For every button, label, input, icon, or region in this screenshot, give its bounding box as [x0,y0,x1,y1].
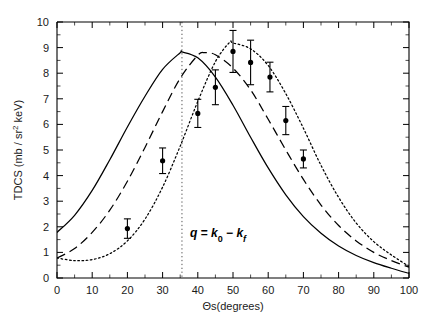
data-point-marker [230,49,235,54]
y-tick-label: 10 [37,16,49,28]
data-point-marker [248,60,253,65]
y-tick-label: 8 [43,67,49,79]
x-tick-label: 70 [297,284,309,296]
x-tick-label: 80 [332,284,344,296]
tdcs-angular-distribution-chart: 0102030405060708090100 012345678910 Θs(d… [0,0,436,323]
x-tick-label: 50 [227,284,239,296]
y-tick-label: 4 [43,170,49,182]
y-tick-label: 2 [43,221,49,233]
x-tick-label: 40 [192,284,204,296]
x-tick-label: 20 [121,284,133,296]
chart-background [0,0,436,323]
x-tick-label: 100 [400,284,418,296]
data-point-marker [160,158,165,163]
data-point-marker [267,74,272,79]
x-tick-label: 0 [54,284,60,296]
data-point-marker [301,156,306,161]
data-point-marker [283,118,288,123]
x-tick-label: 90 [368,284,380,296]
y-tick-label: 5 [43,144,49,156]
y-axis-title: TDCS (mb / sr2 keV) [11,100,25,200]
x-tick-label: 30 [156,284,168,296]
y-tick-label: 7 [43,93,49,105]
y-tick-label: 0 [43,272,49,284]
figure-container: 0102030405060708090100 012345678910 Θs(d… [0,0,436,323]
y-tick-label: 1 [43,246,49,258]
data-point-marker [213,85,218,90]
y-tick-label: 9 [43,42,49,54]
x-axis-title: Θs(degrees) [202,300,263,312]
data-point-marker [125,226,130,231]
x-tick-label: 60 [262,284,274,296]
y-tick-label: 6 [43,118,49,130]
y-tick-label: 3 [43,195,49,207]
x-tick-label: 10 [86,284,98,296]
data-point-marker [195,111,200,116]
